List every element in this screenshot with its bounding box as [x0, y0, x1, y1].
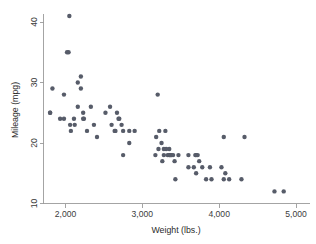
y-axis-ticks: 10203040 — [29, 17, 44, 208]
x-axis-title: Weight (lbs.) — [151, 225, 200, 235]
data-point — [162, 153, 166, 157]
data-point — [62, 92, 66, 96]
data-point — [159, 141, 163, 145]
data-point — [192, 165, 196, 169]
data-point — [73, 123, 77, 127]
data-point — [160, 159, 164, 163]
data-point — [62, 117, 66, 121]
data-point — [172, 159, 176, 163]
data-point — [50, 86, 54, 90]
data-point — [173, 177, 177, 181]
data-point — [117, 117, 121, 121]
data-point — [85, 129, 89, 133]
data-point — [156, 147, 160, 151]
data-point — [68, 123, 72, 127]
x-tick-label: 3,000 — [132, 209, 154, 219]
y-tick-label: 10 — [29, 199, 39, 209]
data-point — [156, 92, 160, 96]
data-point — [66, 50, 70, 54]
data-point — [167, 147, 171, 151]
data-points — [48, 14, 286, 194]
data-point — [219, 165, 223, 169]
data-point — [109, 123, 113, 127]
data-point — [121, 153, 125, 157]
data-point — [127, 141, 131, 145]
data-point — [121, 129, 125, 133]
data-point — [222, 177, 226, 181]
x-tick-label: 5,000 — [285, 209, 307, 219]
data-point — [67, 14, 71, 18]
data-point — [115, 111, 119, 115]
chart-canvas: 10203040 2,0003,0004,0005,000 Weight (lb… — [0, 0, 316, 244]
y-tick-label: 40 — [29, 17, 39, 27]
axes — [44, 14, 311, 204]
data-point — [186, 153, 190, 157]
data-point — [81, 111, 85, 115]
data-point — [69, 129, 73, 133]
data-point — [154, 135, 158, 139]
data-point — [197, 159, 201, 163]
data-point — [119, 123, 123, 127]
data-point — [76, 105, 80, 109]
data-point — [127, 129, 131, 133]
data-point — [113, 129, 117, 133]
x-tick-label: 2,000 — [55, 209, 77, 219]
data-point — [163, 129, 167, 133]
data-point — [76, 80, 80, 84]
data-point — [272, 189, 276, 193]
y-tick-label: 20 — [29, 138, 39, 148]
x-axis-ticks: 2,0003,0004,0005,000 — [55, 204, 307, 220]
data-point — [186, 165, 190, 169]
data-point — [89, 105, 93, 109]
data-point — [195, 153, 199, 157]
data-point — [200, 165, 204, 169]
data-point — [95, 135, 99, 139]
data-point — [208, 165, 212, 169]
data-point — [227, 177, 231, 181]
data-point — [72, 117, 76, 121]
data-point — [223, 171, 227, 175]
data-point — [79, 86, 83, 90]
data-point — [239, 177, 243, 181]
scatter-chart: 10203040 2,0003,0004,0005,000 Weight (lb… — [0, 0, 316, 244]
data-point — [157, 129, 161, 133]
data-point — [92, 123, 96, 127]
data-point — [82, 117, 86, 121]
data-point — [132, 129, 136, 133]
data-point — [108, 105, 112, 109]
data-point — [176, 153, 180, 157]
y-tick-label: 30 — [29, 78, 39, 88]
data-point — [194, 171, 198, 175]
data-point — [48, 111, 52, 115]
data-point — [79, 74, 83, 78]
data-point — [282, 189, 286, 193]
data-point — [58, 117, 62, 121]
data-point — [103, 111, 107, 115]
y-axis-title: Mileage (mpg) — [10, 82, 20, 138]
x-tick-label: 4,000 — [208, 209, 230, 219]
data-point — [171, 153, 175, 157]
data-point — [222, 135, 226, 139]
data-point — [242, 135, 246, 139]
data-point — [153, 153, 157, 157]
data-point — [209, 177, 213, 181]
data-point — [204, 177, 208, 181]
